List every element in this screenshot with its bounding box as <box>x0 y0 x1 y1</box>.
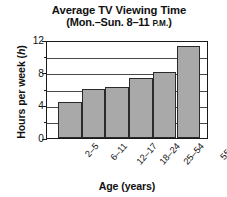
chart-figure: Average TV Viewing Time (Mon.–Sun. 8–11 … <box>0 0 227 197</box>
bar <box>177 46 201 138</box>
x-axis-tick-label: 25–54 <box>182 141 207 167</box>
x-axis-tick-label: 12–17 <box>134 141 159 167</box>
chart-subtitle-smallcaps: P.M. <box>152 19 168 28</box>
chart-subtitle: (Mon.–Sun. 8–11 P.M.) <box>26 17 212 29</box>
x-axis-tick-label: 55 & over <box>208 141 227 180</box>
chart-title-block: Average TV Viewing Time (Mon.–Sun. 8–11 … <box>26 4 212 29</box>
bar <box>105 87 129 138</box>
bar-series <box>47 42 207 138</box>
chart-title: Average TV Viewing Time <box>26 4 212 16</box>
bar <box>153 72 177 138</box>
bar <box>82 89 106 138</box>
x-axis-title: Age (years) <box>46 180 208 192</box>
bar <box>58 102 82 138</box>
bar <box>129 78 153 138</box>
plot-area <box>46 41 208 139</box>
x-axis-tick-label: 2–5 <box>83 141 101 159</box>
chart-subtitle-suffix: ) <box>168 16 171 28</box>
x-axis-tick-label: 6–11 <box>109 141 130 162</box>
chart-subtitle-prefix: (Mon.–Sun. 8–11 <box>66 16 152 28</box>
x-axis-tick-labels: 2–56–1112–1718–2425–5455 & over <box>46 139 208 179</box>
x-axis-tick-label: 18–24 <box>158 141 183 167</box>
plot-inner <box>47 42 207 138</box>
